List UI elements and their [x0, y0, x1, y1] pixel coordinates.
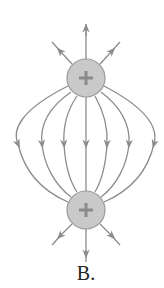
charge-bottom	[67, 191, 105, 229]
outward-arrows-bottom	[52, 224, 120, 262]
field-line	[64, 96, 77, 144]
charge-top	[67, 59, 105, 97]
field-lines	[16, 86, 155, 202]
field-diagram	[0, 0, 164, 288]
outward-arrows-top	[52, 24, 120, 64]
field-line	[101, 92, 129, 144]
field-line	[95, 96, 107, 144]
figure-label: B.	[0, 262, 164, 285]
